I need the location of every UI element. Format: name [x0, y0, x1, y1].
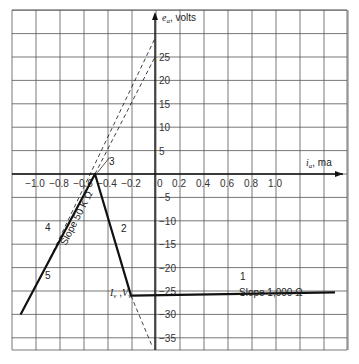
segment-4-label: 4 — [45, 222, 51, 233]
segment-2-label: 2 — [121, 223, 127, 234]
slope-1000-label: Slope 1,000 Ω — [239, 287, 303, 298]
x-tick-label: −0.8 — [49, 178, 69, 189]
y-tick-label: 5 — [159, 146, 165, 157]
y-tick-label: −35 — [159, 333, 176, 344]
x-tick-label: 0.4 — [196, 178, 210, 189]
y-tick-label: −15 — [159, 239, 176, 250]
segment-5-label: 5 — [45, 270, 51, 281]
x-tick-labels: −1.0−0.8−0.6−0.4−0.200.20.40.60.81.0 — [25, 178, 282, 189]
y-tick-label: 15 — [159, 99, 171, 110]
x-axis-arrow-icon — [335, 171, 343, 177]
data-series — [21, 38, 335, 347]
negative-resistance-chart: −1.0−0.8−0.6−0.4−0.200.20.40.60.81.0 252… — [0, 0, 359, 364]
y-tick-label: −5 — [159, 192, 171, 203]
y-axis-arrow-icon — [152, 12, 158, 20]
y-tick-label: −10 — [159, 216, 176, 227]
y-tick-label: −20 — [159, 263, 176, 274]
x-tick-label: 0.6 — [220, 178, 234, 189]
x-tick-label: 0 — [157, 178, 163, 189]
y-tick-label: 25 — [159, 52, 171, 63]
x-tick-label: −1.0 — [25, 178, 45, 189]
x-tick-label: 1.0 — [268, 178, 282, 189]
y-tick-labels: 252015105−5−10−15−20−25−30−35 — [159, 52, 176, 344]
segment-1-label: 1 — [240, 271, 246, 282]
x-tick-label: 0.8 — [244, 178, 258, 189]
y-tick-label: −30 — [159, 309, 176, 320]
y-tick-label: 20 — [159, 75, 171, 86]
x-tick-label: −0.4 — [97, 178, 117, 189]
segment-3-label: 3 — [109, 156, 115, 167]
series-dashed-extension-2 — [131, 296, 153, 347]
y-tick-label: 10 — [159, 122, 171, 133]
x-axis-label: ia, ma — [306, 157, 332, 170]
x-tick-label: −0.2 — [121, 178, 141, 189]
y-axis-label: ea, volts — [162, 12, 196, 25]
x-tick-label: 0.2 — [172, 178, 186, 189]
series-dashed-line-3 — [95, 57, 155, 174]
